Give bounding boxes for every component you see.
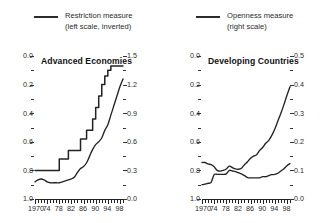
- x-axis-line: [35, 199, 123, 200]
- figure-root: Restriction measure (left scale, inverte…: [0, 0, 330, 223]
- y-tickmark-right-minor: [290, 70, 293, 71]
- y-tick-label-right-1-4: 0.1: [294, 167, 304, 174]
- x-tickmark: [257, 200, 258, 203]
- y-tickmark-right: [290, 85, 294, 86]
- x-tickmark: [223, 200, 224, 203]
- x-tickmark: [62, 200, 63, 203]
- y-tickmark-left-minor: [198, 99, 201, 100]
- y-tick-label-right-0-4: 0.3: [127, 167, 137, 174]
- x-tickmark: [87, 200, 88, 203]
- x-tick-label-1-7: 98: [282, 205, 290, 212]
- y-tickmark-right-minor: [290, 128, 293, 129]
- x-tickmark: [99, 200, 100, 203]
- x-tick-label-0-5: 90: [91, 205, 99, 212]
- x-tickmark: [41, 200, 42, 203]
- y-tickmark-left-minor: [198, 185, 201, 186]
- x-tick-label-1-0: 1970: [195, 205, 211, 212]
- y-tickmark-left-minor: [198, 128, 201, 129]
- chart-panel-developing-countries: Developing Countries 0.00.20.40.60.81.00…: [172, 44, 322, 223]
- legend-item-restriction: Restriction measure (left scale, inverte…: [34, 11, 133, 32]
- x-tick-label-0-7: 98: [115, 205, 123, 212]
- y-tickmark-left: [30, 170, 34, 171]
- series-line-openness-measure: [202, 164, 290, 185]
- x-tickmark: [260, 200, 261, 203]
- x-tick-label-0-1: 74: [43, 205, 51, 212]
- y-tickmark-right: [290, 170, 294, 171]
- y-tickmark-right-minor: [123, 156, 126, 157]
- y-tick-label-right-0-2: 0.9: [127, 110, 137, 117]
- y-tickmark-right-minor: [123, 99, 126, 100]
- x-tickmark: [232, 200, 233, 203]
- y-tickmark-right: [290, 142, 294, 143]
- y-tickmark-right: [123, 142, 127, 143]
- legend-label-openness: Openness measure (right scale): [227, 11, 293, 32]
- x-tickmark: [111, 200, 112, 203]
- x-tick-label-0-0: 1970: [28, 205, 44, 212]
- y-tickmark-left-minor: [198, 156, 201, 157]
- x-tickmark: [102, 200, 103, 203]
- series-canvas-0: [35, 56, 123, 199]
- y-tick-label-right-1-5: 0.0: [294, 195, 304, 202]
- y-tickmark-left: [30, 56, 34, 57]
- y-tickmark-right: [123, 113, 127, 114]
- x-tickmark: [81, 200, 82, 203]
- y-tickmark-left: [197, 85, 201, 86]
- x-axis-line: [202, 199, 290, 200]
- x-tickmark: [53, 200, 54, 203]
- x-tickmark: [105, 200, 106, 203]
- y-tickmark-right-minor: [123, 185, 126, 186]
- legend-label-openness-line1: Openness measure: [227, 11, 293, 20]
- y-tick-label-right-0-1: 1.2: [127, 81, 137, 88]
- y-tickmark-left-minor: [31, 185, 34, 186]
- y-tickmark-right-minor: [290, 156, 293, 157]
- y-tickmark-left: [30, 199, 34, 200]
- x-tickmark: [90, 200, 91, 203]
- series-line-openness-measure: [35, 79, 123, 183]
- y-tickmark-left: [30, 113, 34, 114]
- x-tickmark: [44, 200, 45, 203]
- x-tickmark: [281, 200, 282, 203]
- series-line-restriction-measure: [202, 87, 290, 171]
- legend-swatch-restriction-icon: [34, 16, 58, 18]
- x-tick-label-0-2: 78: [55, 205, 63, 212]
- x-tick-label-1-1: 74: [210, 205, 218, 212]
- y-tickmark-left: [30, 85, 34, 86]
- x-tickmark: [74, 200, 75, 203]
- legend-swatch-openness-icon: [196, 16, 220, 18]
- x-tickmark: [123, 200, 124, 203]
- x-tickmark: [248, 200, 249, 203]
- x-tickmark: [114, 200, 115, 203]
- y-tickmark-left-minor: [31, 156, 34, 157]
- legend-label-openness-line2: (right scale): [227, 22, 293, 33]
- y-tickmark-right: [123, 56, 127, 57]
- x-tickmark: [229, 200, 230, 203]
- x-tick-label-1-6: 94: [270, 205, 278, 212]
- y-tickmark-left: [197, 199, 201, 200]
- y-tickmark-left: [197, 142, 201, 143]
- y-tickmark-right-minor: [290, 99, 293, 100]
- x-tickmark: [56, 200, 57, 203]
- y-tickmark-left-minor: [31, 128, 34, 129]
- y-tickmark-left: [197, 113, 201, 114]
- chart-panel-advanced-economies: Advanced Economies 0.00.20.40.60.81.01.5…: [5, 44, 155, 223]
- y-tickmark-right-minor: [290, 185, 293, 186]
- x-tickmark: [269, 200, 270, 203]
- y-tick-label-right-0-3: 0.6: [127, 138, 137, 145]
- legend-label-restriction-line1: Restriction measure: [65, 11, 133, 20]
- y-tickmark-right-minor: [123, 128, 126, 129]
- y-tickmark-left-minor: [198, 70, 201, 71]
- y-tick-label-right-1-3: 0.2: [294, 138, 304, 145]
- x-tickmark: [241, 200, 242, 203]
- x-tickmark: [38, 200, 39, 203]
- x-tick-label-0-4: 86: [79, 205, 87, 212]
- x-tickmark: [211, 200, 212, 203]
- y-tickmark-left: [197, 170, 201, 171]
- y-tick-label-right-0-5: 0.0: [127, 195, 137, 202]
- y-tickmark-right: [123, 85, 127, 86]
- plot-area-advanced-economies: [35, 56, 123, 199]
- plot-area-developing-countries: [202, 56, 290, 199]
- x-tickmark: [278, 200, 279, 203]
- x-tick-label-1-2: 78: [222, 205, 230, 212]
- x-tickmark: [235, 200, 236, 203]
- x-tickmark: [93, 200, 94, 203]
